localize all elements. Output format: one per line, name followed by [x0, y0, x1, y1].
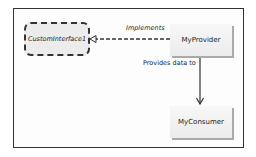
node-label: CustomInterface1	[28, 35, 86, 43]
edge-label-provides-data: Provides data to	[143, 59, 196, 67]
node-label: MyProvider	[181, 36, 220, 44]
node-my-provider[interactable]: MyProvider	[170, 24, 232, 56]
node-custom-interface[interactable]: CustomInterface1	[24, 22, 90, 56]
node-label: MyConsumer	[178, 118, 224, 126]
node-my-consumer[interactable]: MyConsumer	[170, 106, 232, 138]
hollow-arrowhead-icon	[90, 36, 96, 43]
edge-label-implements: Implements	[126, 24, 165, 32]
